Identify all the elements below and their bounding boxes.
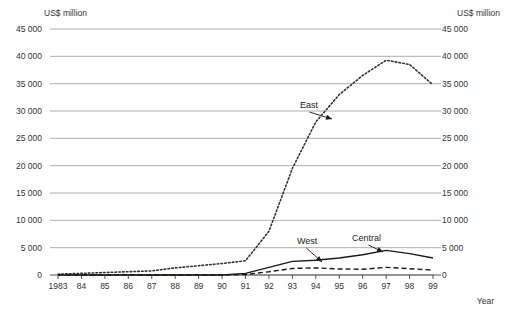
series-label-central: Central xyxy=(352,233,381,243)
series-line-west xyxy=(58,267,433,275)
series-label-west: West xyxy=(297,236,317,246)
gridlines xyxy=(58,29,433,248)
series-line-central xyxy=(58,250,433,275)
plot-area xyxy=(0,0,508,320)
series-label-east: East xyxy=(300,100,318,110)
axis-lines xyxy=(50,29,441,279)
chart-container: US$ million US$ million Year 05 00010 00… xyxy=(0,0,508,320)
